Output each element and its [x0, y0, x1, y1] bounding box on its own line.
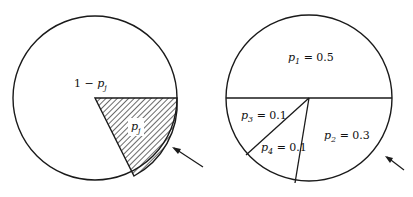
- slice-label-p4: p4 = 0.1: [261, 141, 307, 156]
- slice-label-p3: p3 = 0.1: [241, 109, 287, 124]
- right-pie-chart: p1 = 0.5 p2 = 0.3 p3 = 0.1 p4 = 0.1: [226, 15, 404, 183]
- hatched-slice-pj: [95, 98, 177, 176]
- pointer-arrow-icon: [385, 156, 404, 170]
- diagram-canvas: 1 − pj pj p1 = 0.5 p2 = 0.3 p3 = 0.1 p4 …: [0, 0, 413, 197]
- left-pie-chart: 1 − pj pj: [13, 16, 203, 180]
- slice-label-p1: p1 = 0.5: [288, 51, 334, 66]
- slice-label-p2: p2 = 0.3: [324, 129, 370, 144]
- pointer-arrow-icon: [172, 147, 203, 167]
- complement-label: 1 − pj: [74, 77, 107, 92]
